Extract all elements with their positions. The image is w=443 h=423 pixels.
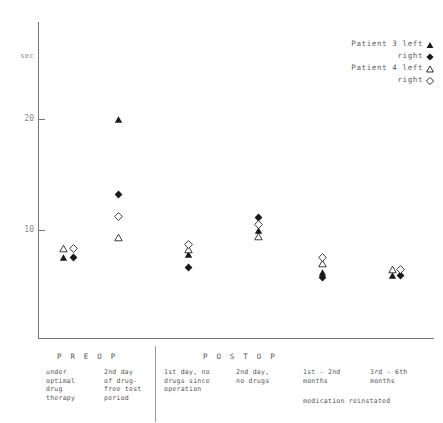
open-triangle-marker bbox=[59, 244, 68, 253]
legend-row-patient4-right: right bbox=[351, 74, 435, 86]
legend-label-patient4-left: Patient 4 left bbox=[351, 62, 423, 74]
column-caption-2: 2nd day of drug- free test period bbox=[104, 368, 141, 402]
legend-label-patient4-right: right bbox=[397, 74, 423, 86]
scatter-chart: sec 20 10 Patient 3 left right Patient 4… bbox=[0, 0, 443, 423]
column-caption-5: 1st - 2nd months bbox=[303, 368, 340, 385]
column-caption-4: 2nd day, no drugs bbox=[236, 368, 269, 385]
chart-legend: Patient 3 left right Patient 4 left righ… bbox=[351, 38, 435, 86]
legend-label-patient3-right: right bbox=[397, 50, 423, 62]
open-diamond-marker bbox=[184, 240, 193, 249]
phase-title-preop: P R E O P bbox=[57, 352, 117, 361]
open-diamond-icon bbox=[425, 76, 435, 86]
legend-row-patient3-right: right bbox=[351, 50, 435, 62]
open-diamond-marker bbox=[254, 220, 263, 229]
column-caption-6: 3rd - 6th months bbox=[370, 368, 407, 385]
filled-diamond-marker bbox=[318, 273, 327, 282]
medication-reinstated-note: medication reinstated bbox=[303, 397, 390, 405]
column-caption-3: 1st day, no drugs since operation bbox=[164, 368, 210, 394]
open-diamond-marker bbox=[396, 265, 405, 274]
legend-row-patient3-left: Patient 3 left bbox=[351, 38, 435, 50]
open-diamond-marker bbox=[69, 244, 78, 253]
phase-divider bbox=[155, 346, 156, 422]
legend-label-patient3-left: Patient 3 left bbox=[351, 38, 423, 50]
filled-diamond-marker bbox=[69, 253, 78, 262]
filled-diamond-marker bbox=[184, 263, 193, 272]
open-triangle-icon bbox=[425, 64, 435, 74]
open-diamond-marker bbox=[114, 212, 123, 221]
filled-triangle-icon bbox=[425, 40, 435, 50]
column-caption-1: under optimal drug therapy bbox=[46, 368, 75, 402]
x-axis-line bbox=[38, 338, 434, 339]
open-triangle-marker bbox=[254, 232, 263, 241]
legend-row-patient4-left: Patient 4 left bbox=[351, 62, 435, 74]
phase-title-postop: P O S T O P bbox=[203, 352, 277, 361]
filled-triangle-marker bbox=[59, 253, 68, 262]
open-diamond-marker bbox=[318, 253, 327, 262]
filled-triangle-marker bbox=[114, 115, 123, 124]
filled-diamond-marker bbox=[114, 190, 123, 199]
filled-diamond-icon bbox=[425, 52, 435, 62]
footer-captions: P R E O P P O S T O P under optimal drug… bbox=[0, 344, 443, 423]
open-triangle-marker bbox=[114, 233, 123, 242]
